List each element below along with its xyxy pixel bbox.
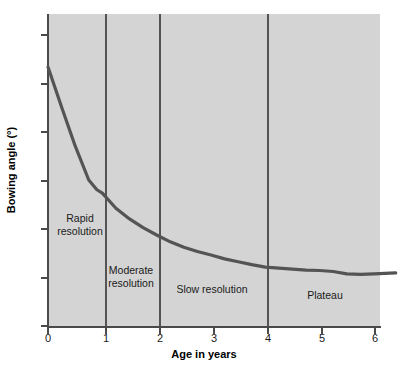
x-tick-label-0: 0: [45, 332, 51, 344]
y-tick-mark-0: [41, 325, 47, 327]
x-tick-label-4: 4: [265, 332, 271, 344]
region-divider-2: [159, 14, 161, 326]
y-axis-title-text: Bowing angle (°): [5, 127, 17, 213]
annotation-moderate-resolution: Moderate resolution: [108, 264, 154, 289]
x-tick-label-1: 1: [103, 332, 109, 344]
plot-area: [48, 14, 380, 326]
region-divider-1: [105, 14, 107, 326]
y-axis-title: Bowing angle (°): [2, 0, 20, 340]
x-tick-label-6: 6: [372, 332, 378, 344]
y-tick-mark-20: [41, 228, 47, 230]
y-tick-mark-30: [41, 180, 47, 182]
annotation-plateau: Plateau: [307, 289, 343, 302]
y-tick-mark-10: [41, 277, 47, 279]
y-tick-mark-40: [41, 131, 47, 133]
y-tick-mark-60: [41, 34, 47, 36]
x-axis-title: Age in years: [0, 348, 408, 360]
bowing-angle-chart: 0 10 20 30 40 50 60 0 1 2 3 4 5 6 Rapid …: [0, 0, 408, 375]
x-tick-label-2: 2: [157, 332, 163, 344]
y-axis-line: [47, 14, 49, 328]
annotation-rapid-resolution: Rapid resolution: [57, 212, 103, 237]
annotation-slow-resolution: Slow resolution: [176, 283, 247, 296]
region-divider-4: [267, 14, 269, 326]
y-tick-mark-50: [41, 83, 47, 85]
x-tick-label-3: 3: [211, 332, 217, 344]
x-tick-label-5: 5: [319, 332, 325, 344]
